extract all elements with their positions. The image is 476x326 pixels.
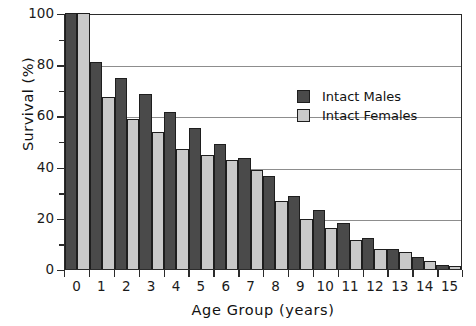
y-tick-label-20: 20 xyxy=(37,212,54,226)
bar-female-age-8 xyxy=(275,201,287,269)
bar-male-age-9 xyxy=(288,196,300,269)
bar-male-age-12 xyxy=(362,238,374,269)
bar-female-age-11 xyxy=(350,240,362,269)
bar-female-age-6 xyxy=(226,160,238,269)
male-swatch xyxy=(297,90,310,103)
x-tick-label-10: 10 xyxy=(313,280,338,300)
bar-group-12 xyxy=(362,15,387,269)
bar-group-10 xyxy=(313,15,338,269)
x-tick-1 xyxy=(89,270,90,277)
x-tick-7 xyxy=(238,270,239,277)
bar-female-age-3 xyxy=(152,132,164,269)
x-tick-11 xyxy=(338,270,339,277)
x-tick-label-4: 4 xyxy=(164,280,189,300)
bar-group-15 xyxy=(436,15,461,269)
x-tick-label-7: 7 xyxy=(238,280,263,300)
bar-female-age-5 xyxy=(201,155,213,269)
y-tick-label-40: 40 xyxy=(37,161,54,175)
bar-male-age-6 xyxy=(214,144,226,269)
survival-bar-chart-figure: 020406080100 Survival (%) Intact MalesIn… xyxy=(0,0,476,326)
x-tick-label-3: 3 xyxy=(139,280,164,300)
bar-female-age-15 xyxy=(449,266,461,269)
x-tick-label-11: 11 xyxy=(338,280,363,300)
x-tick-9 xyxy=(288,270,289,277)
x-axis-title: Age Group (years) xyxy=(64,302,462,318)
bar-group-6 xyxy=(214,15,239,269)
bar-group-14 xyxy=(412,15,437,269)
x-tick-label-2: 2 xyxy=(114,280,139,300)
bar-group-7 xyxy=(238,15,263,269)
bar-group-2 xyxy=(115,15,140,269)
bar-male-age-2 xyxy=(115,78,127,269)
bar-female-age-0 xyxy=(77,13,89,269)
x-tick-5 xyxy=(188,270,189,277)
bar-female-age-2 xyxy=(127,119,139,269)
x-tick-0 xyxy=(64,270,65,277)
y-tick-label-60: 60 xyxy=(37,109,54,123)
bar-female-age-14 xyxy=(424,261,436,269)
bar-group-13 xyxy=(387,15,412,269)
x-tick-2 xyxy=(114,270,115,277)
x-tick-16 xyxy=(462,270,463,277)
female-swatch xyxy=(297,109,310,122)
bar-male-age-4 xyxy=(164,112,176,269)
bar-groups-container xyxy=(65,15,461,269)
bar-female-age-9 xyxy=(300,219,312,269)
bar-male-age-10 xyxy=(313,210,325,269)
plot-area: Intact MalesIntact Females xyxy=(64,14,462,270)
x-tick-label-12: 12 xyxy=(363,280,388,300)
x-tick-label-15: 15 xyxy=(437,280,462,300)
bar-male-age-14 xyxy=(412,257,424,269)
bar-male-age-7 xyxy=(238,158,250,269)
y-tick-0 xyxy=(57,270,64,271)
x-tick-14 xyxy=(412,270,413,277)
x-tick-10 xyxy=(313,270,314,277)
bar-group-0 xyxy=(65,15,90,269)
chart-legend: Intact MalesIntact Females xyxy=(297,87,457,125)
x-tick-6 xyxy=(213,270,214,277)
bar-male-age-0 xyxy=(65,13,77,269)
y-tick-40 xyxy=(57,168,64,169)
bar-group-4 xyxy=(164,15,189,269)
y-tick-60 xyxy=(57,116,64,117)
legend-row-males: Intact Males xyxy=(297,87,457,106)
bar-group-3 xyxy=(139,15,164,269)
bar-group-5 xyxy=(189,15,214,269)
bar-female-age-1 xyxy=(102,97,114,269)
bar-female-age-7 xyxy=(251,170,263,269)
y-tick-20 xyxy=(57,219,64,220)
x-axis-tick-labels: 0123456789101112131415 xyxy=(64,280,462,300)
bar-male-age-11 xyxy=(337,223,349,269)
x-tick-label-14: 14 xyxy=(412,280,437,300)
bar-group-1 xyxy=(90,15,115,269)
y-tick-label-100: 100 xyxy=(28,7,54,21)
legend-label-females: Intact Females xyxy=(322,109,417,122)
x-tick-label-8: 8 xyxy=(263,280,288,300)
y-tick-80 xyxy=(57,65,64,66)
y-tick-label-80: 80 xyxy=(37,58,54,72)
bar-female-age-13 xyxy=(399,252,411,269)
y-tick-label-0: 0 xyxy=(45,263,54,277)
bar-male-age-5 xyxy=(189,128,201,269)
x-tick-label-1: 1 xyxy=(89,280,114,300)
x-tick-label-13: 13 xyxy=(387,280,412,300)
bar-group-9 xyxy=(288,15,313,269)
x-tick-label-5: 5 xyxy=(188,280,213,300)
x-tick-15 xyxy=(437,270,438,277)
bar-female-age-4 xyxy=(176,149,188,269)
x-tick-4 xyxy=(164,270,165,277)
x-tick-label-6: 6 xyxy=(213,280,238,300)
bar-female-age-10 xyxy=(325,228,337,269)
bar-female-age-12 xyxy=(374,249,386,269)
y-axis-title: Survival (%) xyxy=(20,24,36,184)
bar-male-age-3 xyxy=(139,94,151,269)
bar-male-age-15 xyxy=(436,265,448,269)
legend-row-females: Intact Females xyxy=(297,106,457,125)
bar-group-11 xyxy=(337,15,362,269)
x-tick-8 xyxy=(263,270,264,277)
x-tick-12 xyxy=(363,270,364,277)
y-tick-100 xyxy=(57,14,64,15)
x-tick-3 xyxy=(139,270,140,277)
x-tick-13 xyxy=(387,270,388,277)
legend-label-males: Intact Males xyxy=(322,90,401,103)
